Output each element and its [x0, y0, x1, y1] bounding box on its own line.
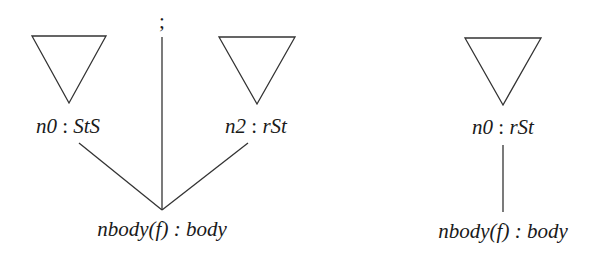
right-tree: n0 : rSt nbody(f) : body	[438, 38, 568, 243]
root-label-nbody-right: nbody(f) : body	[438, 219, 568, 243]
node-label-n2-rst: n2 : rSt	[225, 114, 288, 138]
derivation-trees: ; n0 : StS n2 : rSt nbody(f) : body n0 :…	[0, 0, 602, 262]
edge-n2-to-root	[162, 143, 248, 210]
node-label-n0-sts: n0 : StS	[36, 114, 101, 138]
edge-n0-to-root	[79, 143, 162, 210]
subtree-triangle-n0-right	[465, 38, 541, 105]
left-tree: ; n0 : StS n2 : rSt nbody(f) : body	[32, 9, 295, 241]
root-label-nbody: nbody(f) : body	[97, 217, 227, 241]
sequence-separator: ;	[159, 9, 165, 33]
subtree-triangle-n0	[32, 36, 106, 103]
node-label-n0-rst: n0 : rSt	[472, 115, 535, 139]
subtree-triangle-n2	[219, 37, 295, 104]
